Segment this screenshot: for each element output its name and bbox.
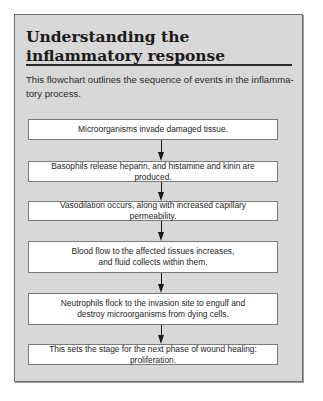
inflammatory-response-sidebar: Understanding the inflammatory response … [14,14,303,382]
flow-step-4: Blood flow to the affected tissues incre… [28,241,278,273]
down-arrow-icon [159,273,165,293]
down-arrow-icon [159,140,165,161]
sidebar-title: Understanding the inflammatory response [26,27,294,65]
flow-step-5: Neutrophils flock to the invasion site t… [28,293,278,325]
down-arrow-icon [159,325,165,344]
flow-step-2: Basophils release heparin, and histamine… [28,161,278,182]
intro-text: This flowchart outlines the sequence of … [26,73,298,101]
flow-step-6: This sets the stage for the next phase o… [28,344,278,365]
flow-step-1: Microorganisms invade damaged tissue. [28,119,278,140]
flow-step-3: Vasodilation occurs, along with increase… [28,201,278,221]
title-divider [26,64,292,66]
down-arrow-icon [159,221,165,241]
down-arrow-icon [159,182,165,201]
